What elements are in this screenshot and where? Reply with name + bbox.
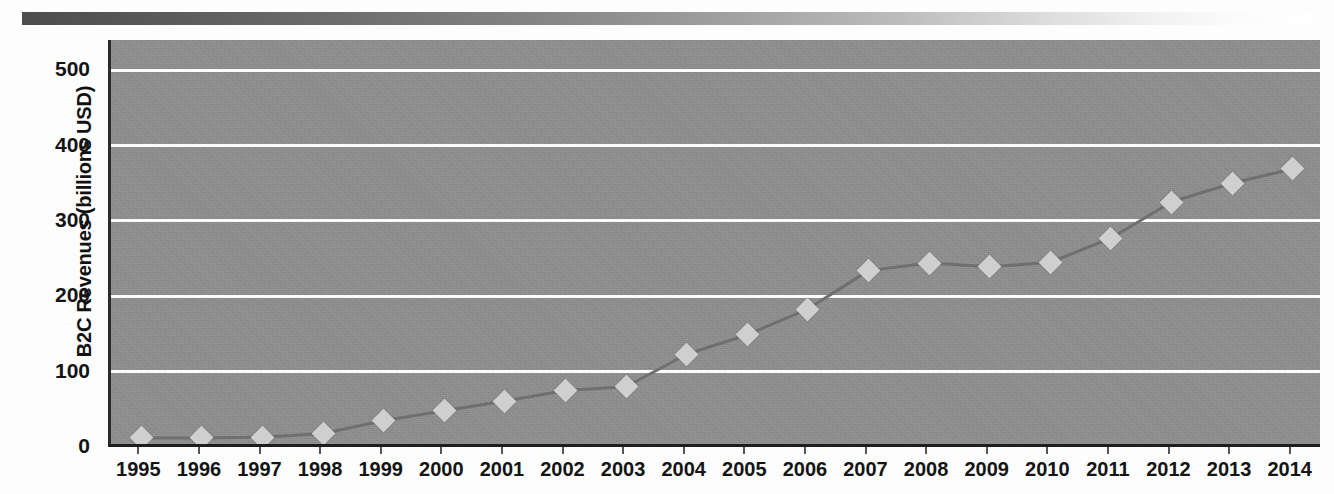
y-tick-label-0: 0 xyxy=(20,434,90,458)
y-tick-label-500: 500 xyxy=(20,57,90,81)
x-tick-mark-1998 xyxy=(319,447,321,454)
y-tick-label-300: 300 xyxy=(20,208,90,232)
x-tick-label-2014: 2014 xyxy=(1250,458,1330,481)
series-line xyxy=(111,40,1320,447)
x-tick-mark-2013 xyxy=(1228,447,1230,454)
x-tick-mark-2003 xyxy=(622,447,624,454)
x-tick-mark-2011 xyxy=(1107,447,1109,454)
x-tick-mark-2008 xyxy=(925,447,927,454)
x-tick-mark-2000 xyxy=(440,447,442,454)
x-tick-mark-2005 xyxy=(743,447,745,454)
x-tick-mark-1995 xyxy=(137,447,139,454)
x-tick-mark-2001 xyxy=(501,447,503,454)
x-tick-mark-2004 xyxy=(683,447,685,454)
y-tick-label-200: 200 xyxy=(20,283,90,307)
plot-area xyxy=(108,40,1320,447)
x-tick-mark-2012 xyxy=(1168,447,1170,454)
x-tick-mark-1997 xyxy=(259,447,261,454)
x-tick-mark-2009 xyxy=(986,447,988,454)
x-tick-mark-2007 xyxy=(865,447,867,454)
x-tick-mark-2010 xyxy=(1046,447,1048,454)
x-tick-mark-2006 xyxy=(804,447,806,454)
x-tick-mark-2014 xyxy=(1289,447,1291,454)
x-tick-mark-2002 xyxy=(562,447,564,454)
x-tick-mark-1996 xyxy=(198,447,200,454)
y-tick-label-400: 400 xyxy=(20,133,90,157)
x-tick-mark-1999 xyxy=(380,447,382,454)
header-gradient-bar xyxy=(22,12,1312,25)
chart-figure: B2C Revenues (billions USD) 010020030040… xyxy=(0,0,1334,494)
y-tick-label-100: 100 xyxy=(20,359,90,383)
